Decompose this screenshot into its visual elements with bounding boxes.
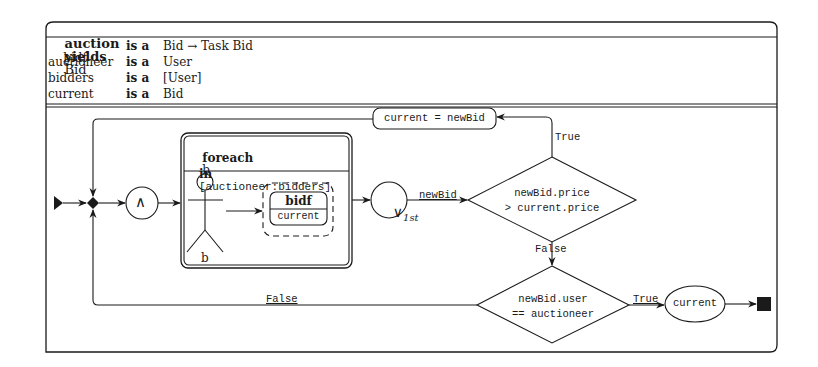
edge-label-newbid: newBid <box>419 190 457 201</box>
param-type: Bid <box>163 88 183 100</box>
edge-label-true: True <box>555 132 580 143</box>
foreach-list: [auctioneer:bidders] <box>199 181 331 193</box>
param-type: [User] <box>163 72 201 84</box>
decision2-line1: newBid.user <box>477 294 629 305</box>
decision1-line2: > current.price <box>468 203 636 214</box>
or-symbol: ∨1st <box>375 191 419 233</box>
param-keyword: is a <box>126 72 149 84</box>
param-keyword: is a <box>126 56 149 68</box>
bidf-task-name: bidf <box>270 195 327 207</box>
param-keyword: is a <box>126 40 149 52</box>
result-text: current <box>665 298 725 309</box>
start-node-icon <box>54 196 63 210</box>
edge-label-true-2: True <box>633 294 658 305</box>
param-keyword: is a <box>126 88 149 100</box>
edge-label-false-2: False <box>266 294 298 305</box>
actor-label: b <box>201 252 209 264</box>
param-name: auctioneer <box>48 56 113 68</box>
or-subscript: 1st <box>403 212 419 223</box>
auction-task-diagram: auction yields Bid bidf is a Bid → Task … <box>0 0 818 367</box>
in-keyword: in <box>199 167 212 181</box>
decision2-line2: == auctioneer <box>477 309 629 320</box>
param-name: current <box>48 88 94 100</box>
stop-node-icon <box>757 297 771 311</box>
decision1-line1: newBid.price <box>468 188 636 199</box>
or-glyph: ∨ <box>393 204 403 220</box>
and-symbol: ∧ <box>135 195 146 210</box>
param-name: bidders <box>48 72 94 84</box>
edge-label-false: False <box>535 244 567 255</box>
assign-text: current = newBid <box>373 113 496 124</box>
bidf-task-arg: current <box>270 212 327 222</box>
decision-price-node <box>468 157 636 242</box>
param-type: User <box>163 56 192 68</box>
param-type: Bid → Task Bid <box>163 40 253 52</box>
merge-node-icon <box>87 197 99 209</box>
